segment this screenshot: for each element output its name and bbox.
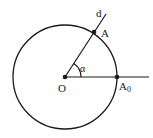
- label-a0-subscript: 0: [127, 85, 131, 94]
- point-a: [92, 30, 97, 35]
- label-d: d: [96, 7, 102, 19]
- diagram-canvas: d A α O A0: [0, 0, 153, 138]
- label-a0-main: A: [119, 80, 127, 92]
- label-a: A: [101, 27, 109, 39]
- label-alpha: α: [80, 63, 86, 74]
- label-a0: A0: [119, 80, 131, 94]
- ray-d: [65, 14, 106, 77]
- point-a0: [115, 75, 120, 80]
- point-o: [63, 75, 68, 80]
- label-o: O: [58, 82, 66, 94]
